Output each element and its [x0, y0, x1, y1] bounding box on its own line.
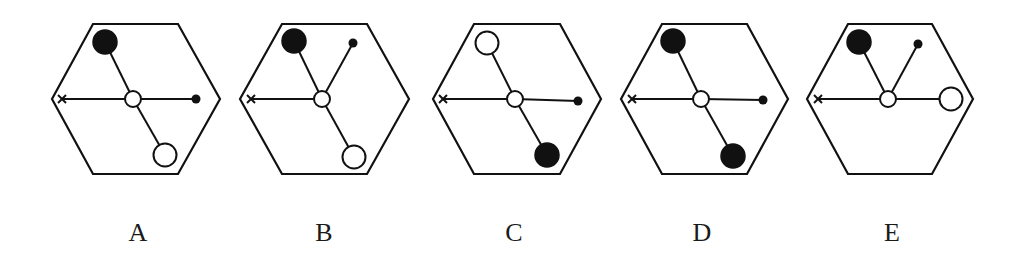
spoke-line [515, 99, 578, 101]
small-black-dot-icon [192, 95, 201, 104]
option-label-e: E [872, 218, 912, 248]
center-node-icon [314, 91, 330, 107]
small-black-dot-icon [574, 97, 583, 106]
large-black-circle-icon [282, 29, 306, 53]
option-panel-c [433, 24, 601, 174]
spoke-line [701, 99, 763, 100]
small-black-dot-icon [759, 96, 768, 105]
option-panel-e [807, 24, 973, 174]
option-panel-a [52, 24, 220, 174]
large-black-circle-icon [721, 144, 745, 168]
small-black-dot-icon [349, 39, 358, 48]
small-black-dot-icon [914, 40, 923, 49]
large-black-circle-icon [847, 30, 871, 54]
center-node-icon [125, 91, 141, 107]
large-black-circle-icon [93, 30, 117, 54]
option-panel-b [240, 24, 409, 174]
large-white-circle-icon [940, 88, 963, 111]
spoke-line [888, 44, 918, 99]
option-label-a: A [118, 218, 158, 248]
spoke-line [322, 43, 353, 99]
option-label-c: C [494, 218, 534, 248]
option-label-b: B [304, 218, 344, 248]
option-label-d: D [682, 218, 722, 248]
large-black-circle-icon [661, 29, 685, 53]
center-node-icon [693, 91, 709, 107]
option-panel-d [621, 24, 788, 174]
large-black-circle-icon [535, 143, 559, 167]
large-white-circle-icon [476, 32, 499, 55]
center-node-icon [507, 91, 523, 107]
large-white-circle-icon [343, 146, 366, 169]
large-white-circle-icon [154, 144, 177, 167]
center-node-icon [880, 91, 896, 107]
